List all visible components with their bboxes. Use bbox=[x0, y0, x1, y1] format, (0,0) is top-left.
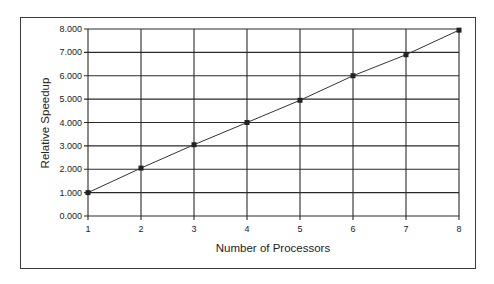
y-tick-label: 0.000 bbox=[59, 211, 82, 221]
x-axis-ticks: 12345678 bbox=[85, 224, 461, 234]
data-point-marker bbox=[298, 98, 303, 103]
y-tick-label: 3.000 bbox=[59, 141, 82, 151]
data-point-marker bbox=[351, 73, 356, 78]
data-point-marker bbox=[245, 120, 250, 125]
x-axis-title: Number of Processors bbox=[216, 242, 331, 254]
y-tick-label: 8.000 bbox=[59, 24, 82, 34]
x-tick-label: 5 bbox=[297, 224, 302, 234]
data-point-marker bbox=[457, 28, 462, 33]
x-tick-label: 8 bbox=[456, 224, 461, 234]
data-point-marker bbox=[139, 166, 144, 171]
y-axis-ticks: 0.0001.0002.0003.0004.0005.0006.0007.000… bbox=[59, 24, 82, 221]
x-tick-label: 6 bbox=[350, 224, 355, 234]
x-tick-label: 4 bbox=[244, 224, 249, 234]
x-tick-label: 3 bbox=[191, 224, 196, 234]
y-tick-label: 5.000 bbox=[59, 94, 82, 104]
y-tick-label: 1.000 bbox=[59, 188, 82, 198]
y-tick-label: 7.000 bbox=[59, 47, 82, 57]
y-tick-label: 4.000 bbox=[59, 118, 82, 128]
y-axis-title: Relative Speedup bbox=[39, 78, 51, 169]
y-tick-label: 6.000 bbox=[59, 71, 82, 81]
grid-lines bbox=[84, 29, 459, 220]
x-tick-label: 1 bbox=[85, 224, 90, 234]
x-tick-label: 2 bbox=[138, 224, 143, 234]
x-tick-label: 7 bbox=[403, 224, 408, 234]
y-tick-label: 2.000 bbox=[59, 164, 82, 174]
series-line bbox=[88, 30, 459, 192]
data-point-marker bbox=[86, 190, 91, 195]
data-point-marker bbox=[192, 142, 197, 147]
data-point-marker bbox=[404, 52, 409, 57]
speedup-line-chart: 0.0001.0002.0003.0004.0005.0006.0007.000… bbox=[0, 0, 494, 284]
